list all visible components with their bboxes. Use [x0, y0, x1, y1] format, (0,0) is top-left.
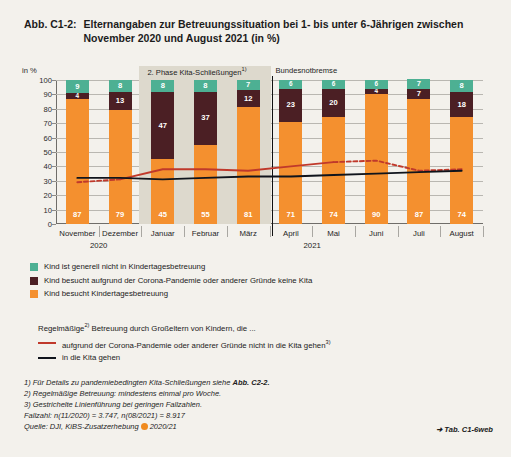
x-axis-separator: [99, 226, 100, 237]
legend-item-label: Kind besucht Kindertagesbetreuung: [44, 289, 168, 299]
legend-line-label: in die Kita gehen: [62, 353, 120, 363]
legend-item[interactable]: Kind ist generell nicht in Kindertagesbe…: [30, 262, 470, 272]
quelle-year: 2020/21: [150, 422, 177, 431]
x-axis-separator: [355, 226, 356, 237]
legend-item-label: Kind ist generell nicht in Kindertagesbe…: [44, 262, 205, 272]
legend-line-label: aufgrund der Corona-Pandemie oder andere…: [62, 337, 331, 351]
legend-lines-heading-pre: Regelmäßige: [38, 324, 84, 333]
x-axis-label: August: [440, 229, 483, 238]
legend-line-swatch-red: [38, 342, 56, 344]
x-axis-separator: [483, 226, 484, 237]
legend-line-item[interactable]: aufgrund der Corona-Pandemie oder andere…: [38, 337, 468, 351]
y-axis-tick-label: 50: [44, 148, 52, 157]
legend-lines-heading: Regelmäßige2) Betreuung durch Großeltern…: [38, 322, 468, 333]
figure-page: Abb. C1-2: Elternangaben zur Betreuungss…: [0, 0, 511, 457]
footnotes: 1) Für Details zu pandemiebedingten Kita…: [24, 378, 424, 433]
x-axis-label: November: [56, 229, 99, 238]
x-axis-separator: [440, 226, 441, 237]
x-axis-label: März: [227, 229, 270, 238]
y-axis-tick-label: 60: [44, 133, 52, 142]
annotation-band-label-wrap: 2. Phase Kita-Schließungen1): [147, 66, 246, 77]
legend-line-item[interactable]: in die Kita gehen: [38, 353, 468, 363]
footnote-1-text: 1) Für Details zu pandemiebedingten Kita…: [24, 378, 232, 387]
x-axis-separator: [312, 226, 313, 237]
legend-swatch-teal: [30, 263, 38, 271]
annotation-band-label: 2. Phase Kita-Schließungen: [147, 68, 241, 77]
legend-swatch-maroon: [30, 277, 38, 285]
y-axis-tick-label: 100: [39, 76, 52, 85]
x-axis-separator: [398, 226, 399, 237]
y-axis-tick-label: 20: [44, 191, 52, 200]
x-axis-separator: [227, 226, 228, 237]
x-axis-label: Januar: [141, 229, 184, 238]
legend-lines-heading-post: Betreuung durch Großeltern von Kindern, …: [89, 324, 255, 333]
x-axis-label: Mai: [312, 229, 355, 238]
quelle-text: Quelle: DJI, KiBS-Zusatzerhebung: [24, 422, 139, 431]
y-axis-tick: [52, 224, 56, 225]
footnote-1-ref: Abb. C2-2.: [232, 378, 269, 387]
y-axis-tick-label: 10: [44, 205, 52, 214]
x-axis-separator: [270, 226, 271, 237]
footnote-3: 3) Gestrichelte Linienführung bei gering…: [24, 400, 424, 411]
x-axis-separator: [184, 226, 185, 237]
x-axis-label: Juli: [398, 229, 441, 238]
figure-title-text: Elternangaben zur Betreuungssituation be…: [84, 17, 498, 45]
chart-container: in % 01020304050607080901002. Phase Kita…: [22, 68, 489, 249]
legend-line-footnote: 3): [326, 339, 331, 345]
footnote-2: 2) Regelmäßige Betreuung: mindestens ein…: [24, 389, 424, 400]
legend-bars: Kind ist generell nicht in Kindertagesbe…: [30, 262, 470, 303]
x-axis-separator: [141, 226, 142, 237]
line-overlay: [56, 80, 483, 224]
x-axis-label: April: [270, 229, 313, 238]
x-axis-label: Dezember: [99, 229, 142, 238]
y-axis-tick-label: 80: [44, 104, 52, 113]
x-axis-year-group: 2021: [141, 241, 483, 250]
source-dot-icon: [141, 423, 148, 430]
y-axis-tick-label: 70: [44, 119, 52, 128]
figure-title: Abb. C1-2: Elternangaben zur Betreuungss…: [24, 17, 497, 45]
gridline: [56, 224, 483, 225]
footnote-1: 1) Für Details zu pandemiebedingten Kita…: [24, 378, 424, 389]
quelle: Quelle: DJI, KiBS-Zusatzerhebung2020/21: [24, 422, 424, 433]
y-axis-tick-label: 30: [44, 176, 52, 185]
annotation-vline-label: Bundesnotbremse: [276, 66, 338, 75]
figure-number: Abb. C1-2:: [24, 17, 77, 31]
y-axis-tick-label: 40: [44, 162, 52, 171]
table-reference[interactable]: ➜ Tab. C1-6web: [436, 425, 493, 434]
legend-item-label: Kind besucht aufgrund der Corona-Pandemi…: [44, 276, 312, 286]
legend-item[interactable]: Kind besucht aufgrund der Corona-Pandemi…: [30, 276, 470, 286]
annotation-band-footnote: 1): [242, 66, 247, 72]
legend-item[interactable]: Kind besucht Kindertagesbetreuung: [30, 289, 470, 299]
x-axis-year-group: 2020: [56, 241, 141, 250]
data-line-red: [77, 179, 120, 182]
y-axis-tick-label: 90: [44, 90, 52, 99]
legend-swatch-orange: [30, 290, 38, 298]
plot-area: 01020304050607080901002. Phase Kita-Schl…: [56, 80, 483, 224]
legend-line-swatch-black: [38, 357, 56, 359]
legend-lines: Regelmäßige2) Betreuung durch Großeltern…: [38, 322, 468, 366]
y-axis-unit: in %: [22, 66, 37, 75]
x-axis-label: Juni: [355, 229, 398, 238]
x-axis-label: Februar: [184, 229, 227, 238]
fallzahl: Fallzahl: n(11/2020) = 3.747, n(08/2021)…: [24, 411, 424, 422]
data-line-red: [334, 161, 462, 171]
